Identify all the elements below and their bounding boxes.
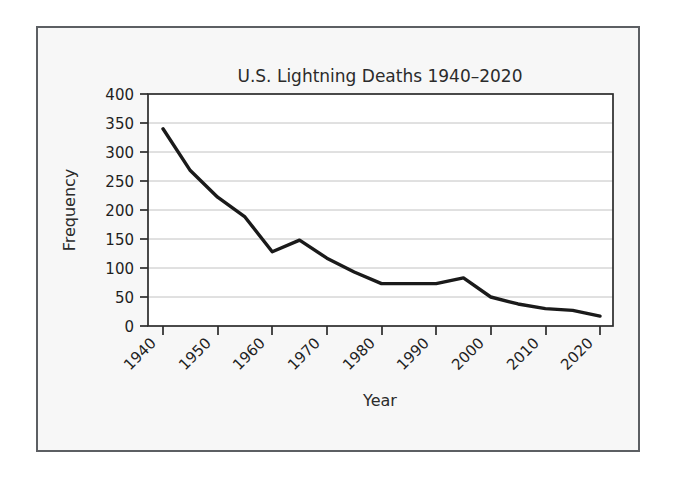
x-axis-tick-labels: 1940 1950 1960 1970 1980 1990 2000 2010 …	[120, 334, 597, 374]
chart-page: 400 350 300 250 200 150 100 50 0 1940 19…	[0, 0, 683, 482]
line-chart: 400 350 300 250 200 150 100 50 0 1940 19…	[0, 0, 683, 482]
x-tick-label-1970: 1970	[284, 334, 324, 374]
y-axis-title: Frequency	[60, 169, 79, 252]
x-tick-label-2010: 2010	[503, 334, 543, 374]
x-tick-label-1990: 1990	[393, 334, 433, 374]
y-axis-ticks	[140, 94, 148, 326]
y-tick-label-250: 250	[105, 173, 134, 191]
y-tick-label-200: 200	[105, 202, 134, 220]
y-tick-label-100: 100	[105, 260, 134, 278]
x-tick-label-1960: 1960	[229, 334, 269, 374]
x-axis-ticks	[163, 326, 600, 335]
x-axis-title: Year	[362, 391, 397, 410]
y-tick-label-50: 50	[115, 289, 134, 307]
x-tick-label-1940: 1940	[120, 334, 160, 374]
y-axis-tick-labels: 400 350 300 250 200 150 100 50 0	[105, 86, 134, 336]
x-tick-label-1980: 1980	[339, 334, 379, 374]
x-tick-label-2000: 2000	[448, 334, 488, 374]
y-tick-label-150: 150	[105, 231, 134, 249]
x-tick-label-1950: 1950	[175, 334, 215, 374]
chart-title: U.S. Lightning Deaths 1940–2020	[237, 66, 522, 86]
y-tick-label-300: 300	[105, 144, 134, 162]
x-tick-label-2020: 2020	[557, 334, 597, 374]
y-tick-label-350: 350	[105, 115, 134, 133]
y-tick-label-0: 0	[124, 318, 134, 336]
y-tick-label-400: 400	[105, 86, 134, 104]
